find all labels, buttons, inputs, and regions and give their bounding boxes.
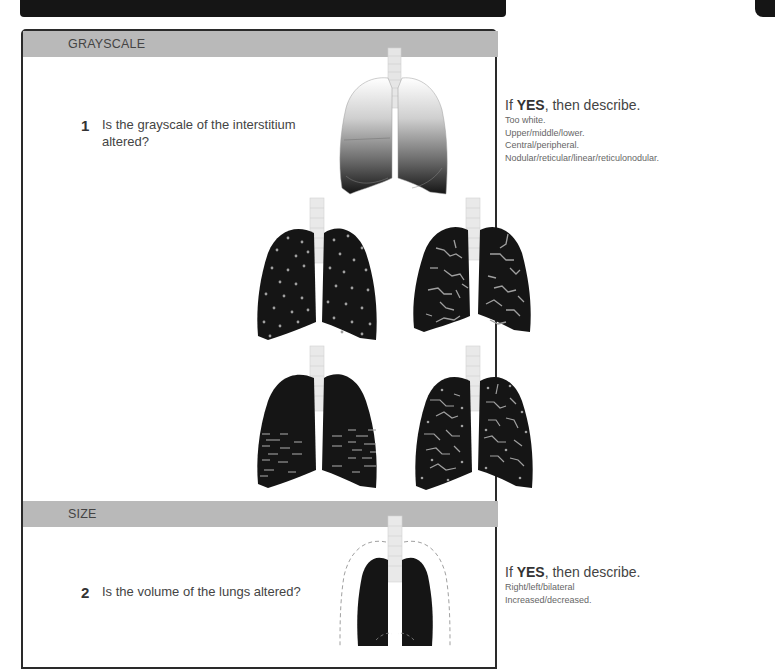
- linear-lungs-illustration: [252, 346, 382, 491]
- reticulonodular-lungs-illustration: [410, 346, 540, 491]
- description-line: Too white.: [505, 114, 765, 127]
- top-banner-edge: [755, 0, 775, 17]
- description-line: Increased/decreased.: [505, 594, 765, 607]
- section-title: GRAYSCALE: [68, 37, 145, 51]
- description-heading: If YES, then describe.: [505, 96, 765, 114]
- description-heading: If YES, then describe.: [505, 563, 765, 581]
- question-text: Is the volume of the lungs altered?: [102, 583, 342, 600]
- question-number: 1: [81, 117, 89, 134]
- description-line: Upper/middle/lower.: [505, 127, 765, 140]
- nodular-lungs-illustration: [252, 198, 382, 343]
- description-block: If YES, then describe. Right/left/bilate…: [505, 563, 765, 606]
- gradient-lungs-illustration: [330, 48, 460, 193]
- section-title: SIZE: [68, 507, 97, 521]
- size-lungs-illustration: [336, 516, 466, 646]
- question-text: Is the grayscale of the interstitium alt…: [102, 116, 312, 150]
- question-number: 2: [81, 584, 89, 601]
- top-banner: [20, 0, 506, 17]
- description-line: Central/peripheral.: [505, 139, 765, 152]
- description-line: Right/left/bilateral: [505, 581, 765, 594]
- description-line: Nodular/reticular/linear/reticulonodular…: [505, 152, 765, 165]
- description-block: If YES, then describe. Too white. Upper/…: [505, 96, 765, 164]
- reticular-lungs-illustration: [410, 198, 540, 343]
